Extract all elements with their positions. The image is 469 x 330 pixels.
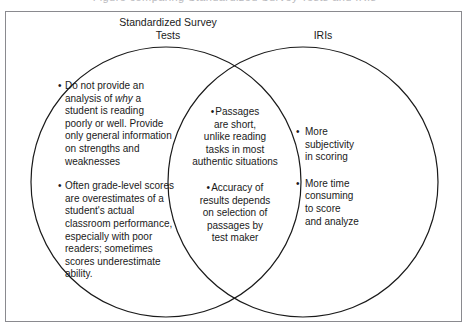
list-item-text: Do not provide an analysis of why a stud… bbox=[65, 80, 172, 167]
overlap-region-content: •Passages are short, unlike reading task… bbox=[186, 106, 284, 245]
list-item-text: •Passages are short, unlike reading task… bbox=[192, 106, 278, 167]
clipped-caption-above: Figure comparing Standardized Survey Tes… bbox=[0, 0, 469, 3]
list-item: • More time consuming to score and analy… bbox=[296, 178, 396, 228]
bullet-dot-icon: • bbox=[211, 106, 215, 117]
bullet-dot-icon: • bbox=[296, 126, 300, 139]
heading-iris: IRIs bbox=[278, 29, 368, 42]
list-item-text: More subjectivity in scoring bbox=[305, 126, 354, 162]
bullet-dot-icon: • bbox=[58, 180, 62, 193]
bullet-dot-icon: • bbox=[296, 178, 300, 191]
list-item: • Do not provide an analysis of why a st… bbox=[58, 80, 184, 168]
list-item-text-body: Accuracy of results depends on selection… bbox=[200, 182, 271, 243]
heading-standardized-survey-tests: Standardized Survey Tests bbox=[108, 16, 228, 42]
list-item: • Often grade-level scores are overestim… bbox=[58, 180, 184, 281]
list-item: • More subjectivity in scoring bbox=[296, 126, 396, 164]
bullet-dot-icon: • bbox=[58, 80, 62, 93]
list-item-text: More time consuming to score and analyze bbox=[305, 178, 359, 227]
bullet-dot-icon: • bbox=[207, 182, 211, 193]
list-item-text: Often grade-level scores are overestimat… bbox=[65, 180, 174, 279]
left-circle-content: • Do not provide an analysis of why a st… bbox=[58, 80, 184, 281]
list-item-text-body: Passages are short, unlike reading tasks… bbox=[192, 106, 278, 167]
list-item-text: •Accuracy of results depends on selectio… bbox=[200, 182, 271, 243]
right-circle-content: • More subjectivity in scoring • More ti… bbox=[296, 126, 396, 228]
list-item-text-emphasis: why bbox=[115, 93, 133, 104]
list-item: •Passages are short, unlike reading task… bbox=[186, 106, 284, 169]
list-item: •Accuracy of results depends on selectio… bbox=[186, 182, 284, 245]
